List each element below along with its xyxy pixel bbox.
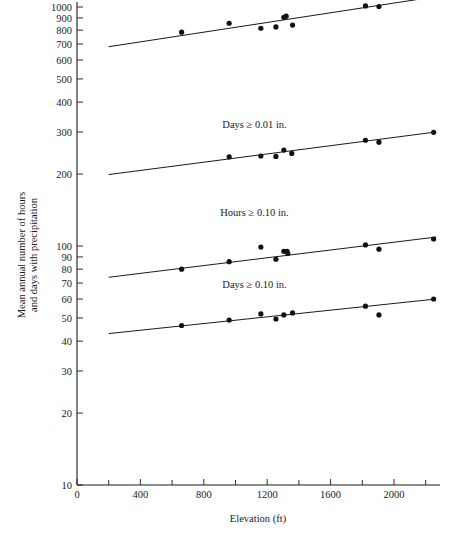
x-tick-label: 800 xyxy=(196,489,212,500)
data-point xyxy=(284,14,289,19)
x-tick-label: 1200 xyxy=(257,489,278,500)
data-point xyxy=(376,312,381,317)
x-tick-label: 1600 xyxy=(320,489,341,500)
y-tick-label: 50 xyxy=(62,313,73,324)
data-point xyxy=(281,312,286,317)
y-tick-label: 100 xyxy=(56,241,72,252)
data-point xyxy=(273,316,278,321)
y-tick-label: 500 xyxy=(56,74,72,85)
data-point xyxy=(285,251,290,256)
y-tick-label: 90 xyxy=(62,252,73,263)
y-tick-label: 60 xyxy=(62,294,73,305)
data-point xyxy=(179,323,184,328)
regression-line xyxy=(109,132,436,175)
regression-line xyxy=(109,237,436,277)
data-point xyxy=(258,244,263,249)
data-point xyxy=(290,310,295,315)
data-point xyxy=(289,151,294,156)
series-group: Hours ≥ 0.01 in. xyxy=(109,0,437,47)
regression-line xyxy=(109,0,436,47)
data-point xyxy=(227,154,232,159)
data-point xyxy=(258,26,263,31)
y-tick-label: 80 xyxy=(62,264,73,275)
y-tick-label: 1000 xyxy=(51,2,72,13)
data-point xyxy=(179,267,184,272)
y-tick-label: 300 xyxy=(56,127,72,138)
data-point xyxy=(363,242,368,247)
x-axis-title: Elevation (ft) xyxy=(230,513,287,525)
data-point xyxy=(258,311,263,316)
x-tick-label: 400 xyxy=(133,489,149,500)
series-label: Days ≥ 0.01 in. xyxy=(222,119,286,130)
data-point xyxy=(227,21,232,26)
series-group: Hours ≥ 0.10 in. xyxy=(109,207,437,277)
data-point xyxy=(363,304,368,309)
y-tick-label: 800 xyxy=(56,25,72,36)
y-tick-label: 200 xyxy=(56,169,72,180)
y-axis-ticks: 1020304050607080901002003004005006007008… xyxy=(51,2,83,491)
data-point xyxy=(273,257,278,262)
data-point xyxy=(273,24,278,29)
x-tick-label: 2000 xyxy=(383,489,404,500)
y-axis-title: Mean annual number of hours and days wit… xyxy=(16,192,39,319)
y-axis-title-line-2: and days with precipitation xyxy=(28,197,39,312)
y-axis-title-line-1: Mean annual number of hours xyxy=(16,192,27,319)
data-point xyxy=(281,147,286,152)
y-tick-label: 30 xyxy=(62,366,73,377)
y-tick-label: 400 xyxy=(56,97,72,108)
y-tick-label: 10 xyxy=(62,480,73,491)
x-axis-ticks: 0400800120016002000 xyxy=(74,479,425,500)
y-tick-label: 900 xyxy=(56,13,72,24)
regression-line xyxy=(109,299,436,334)
series-group: Days ≥ 0.01 in. xyxy=(109,119,437,175)
data-point xyxy=(376,247,381,252)
y-tick-label: 700 xyxy=(56,39,72,50)
series-label: Days ≥ 0.10 in. xyxy=(222,279,286,290)
data-point xyxy=(179,30,184,35)
y-tick-label: 600 xyxy=(56,55,72,66)
data-point xyxy=(273,154,278,159)
data-point xyxy=(363,138,368,143)
data-point xyxy=(431,236,436,241)
data-point xyxy=(376,140,381,145)
chart-figure: Mean annual number of hours and days wit… xyxy=(0,0,452,534)
data-series-layer: Hours ≥ 0.01 in.Days ≥ 0.01 in.Hours ≥ 0… xyxy=(109,0,437,334)
data-point xyxy=(258,153,263,158)
precipitation-vs-elevation-scatter-plot: Mean annual number of hours and days wit… xyxy=(0,0,452,534)
data-point xyxy=(227,317,232,322)
data-point xyxy=(431,296,436,301)
y-tick-label: 70 xyxy=(62,278,73,289)
x-tick-label: 0 xyxy=(74,489,79,500)
data-point xyxy=(290,22,295,27)
y-tick-label: 20 xyxy=(62,408,73,419)
data-point xyxy=(363,3,368,8)
data-point xyxy=(431,130,436,135)
data-point xyxy=(227,259,232,264)
data-point xyxy=(376,4,381,9)
series-group: Days ≥ 0.10 in. xyxy=(109,279,437,333)
series-label: Hours ≥ 0.10 in. xyxy=(220,207,288,218)
y-tick-label: 40 xyxy=(62,336,73,347)
